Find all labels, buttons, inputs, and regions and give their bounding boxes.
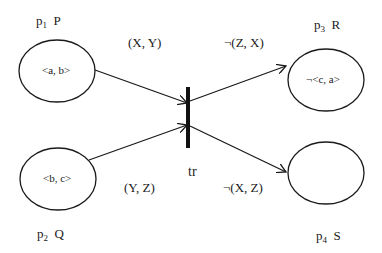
place-p1-token: <a, b> — [42, 65, 70, 76]
transition-bar — [186, 87, 190, 148]
arc-p1-tr — [95, 70, 187, 103]
arc-tr-p4 — [190, 126, 286, 172]
transition-label: tr — [188, 165, 197, 179]
place-p3-token: ¬<c, a> — [306, 74, 340, 85]
arc-p2-tr — [89, 125, 187, 160]
place-p2-token: <b, c> — [43, 173, 71, 184]
place-p4-label: p4 S — [316, 229, 341, 245]
arc-label-tr-p4: ¬(X, Z) — [223, 181, 263, 194]
place-p4-circle — [288, 142, 364, 204]
arc-label-p2-tr: (Y, Z) — [124, 181, 155, 194]
arc-tr-p3 — [190, 66, 286, 101]
petri-net-diagram: p1 P <a, b> p2 Q <b, c> p3 R ¬<c, a> p4 … — [0, 0, 382, 253]
diagram-graphics — [0, 0, 382, 253]
arc-label-p1-tr: (X, Y) — [128, 36, 161, 49]
place-p3-label: p3 R — [314, 18, 340, 34]
arc-label-tr-p3: ¬(Z, X) — [224, 36, 264, 49]
place-p2-label: p2 Q — [37, 227, 64, 243]
place-p1-label: p1 P — [36, 14, 61, 30]
